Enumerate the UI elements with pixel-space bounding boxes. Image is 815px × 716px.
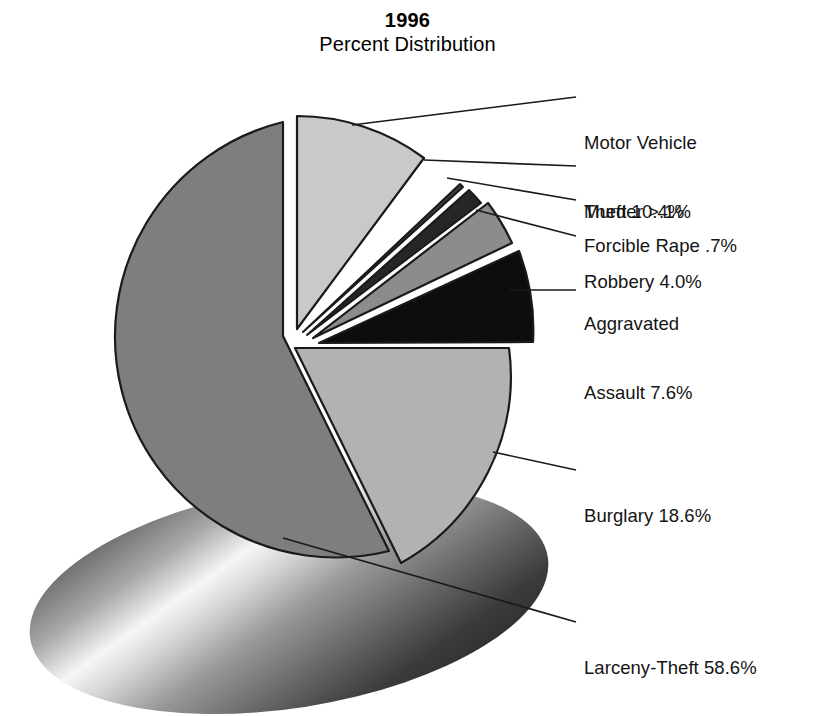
- leader-line-motor-vehicle-theft: [352, 97, 576, 125]
- callout-line-1: Burglary 18.6%: [584, 505, 711, 528]
- callout-label-aggravated-assault: Aggravated Assault 7.6%: [584, 267, 693, 451]
- leader-line-burglary: [493, 452, 576, 470]
- callout-line-1: Aggravated: [584, 313, 693, 336]
- pie-chart-figure: 1996 Percent Distribution: [0, 0, 815, 716]
- callout-label-burglary: Burglary 18.6%: [584, 459, 711, 574]
- leader-line-murder: [424, 160, 576, 166]
- pie-slice-motor-vehicle-theft[interactable]: [297, 116, 424, 329]
- callout-label-larceny-theft: Larceny-Theft 58.6%: [584, 611, 757, 716]
- callout-line-1: Motor Vehicle: [584, 132, 697, 155]
- callout-line-2: Assault 7.6%: [584, 382, 693, 405]
- callout-line-1: Larceny-Theft 58.6%: [584, 657, 757, 680]
